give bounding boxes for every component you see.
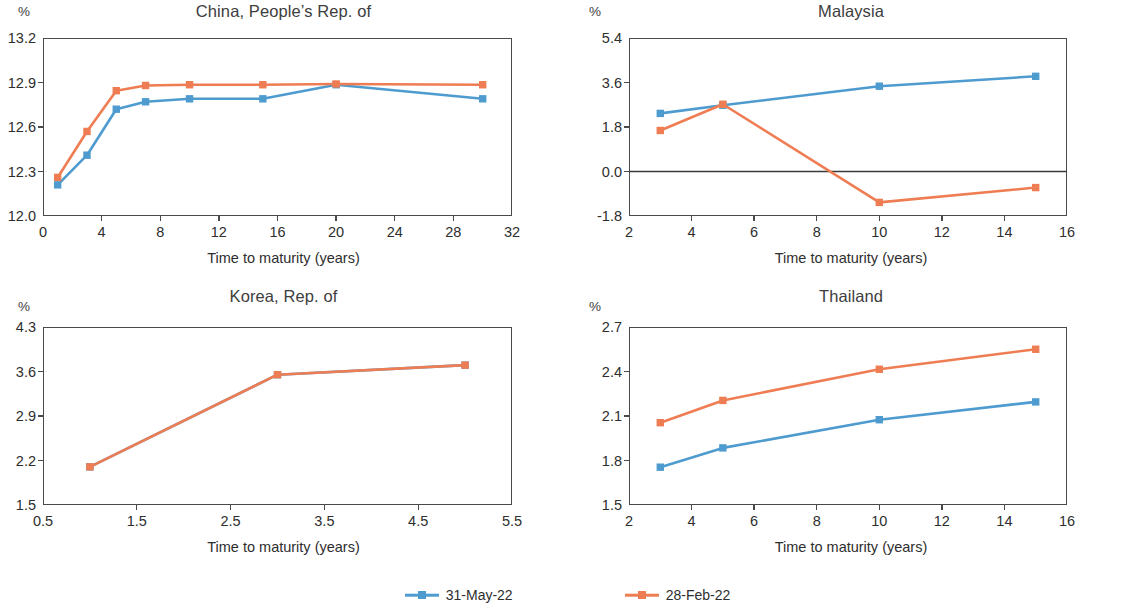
- x-tick-label-thailand: 12: [934, 513, 950, 529]
- y-unit-thailand: %: [589, 299, 601, 314]
- chart-title-malaysia: Malaysia: [567, 2, 1135, 21]
- x-tick-label-china: 4: [98, 224, 106, 240]
- y-tick-mark: [624, 371, 629, 372]
- series-line-china-0: [58, 85, 483, 185]
- y-tick-mark: [624, 82, 629, 83]
- data-point-marker: [83, 151, 90, 158]
- data-point-marker: [1032, 73, 1039, 80]
- plot-area-thailand: 1.51.82.12.42.7246810121416: [629, 327, 1067, 505]
- y-tick-mark: [624, 415, 629, 416]
- y-tick-label-korea: 2.9: [16, 408, 36, 424]
- x-axis-label-korea: Time to maturity (years): [0, 539, 567, 555]
- y-tick-label-thailand: 2.7: [602, 319, 622, 335]
- y-tick-mark: [38, 371, 43, 372]
- series-line-korea-1: [90, 365, 465, 467]
- x-tick-label-malaysia: 6: [750, 224, 758, 240]
- data-point-marker: [274, 371, 281, 378]
- x-tick-label-malaysia: 2: [625, 224, 633, 240]
- data-point-marker: [657, 463, 664, 470]
- x-tick-mark: [418, 505, 419, 510]
- data-point-marker: [142, 98, 149, 105]
- x-tick-label-thailand: 14: [996, 513, 1012, 529]
- y-tick-label-china: 12.9: [8, 75, 36, 91]
- y-tick-label-thailand: 2.4: [602, 364, 622, 380]
- panel-china: China, People’s Rep. of % 12.012.312.612…: [0, 0, 567, 285]
- y-tick-label-china: 12.0: [8, 208, 36, 224]
- legend-item-0: 31-May-22: [405, 587, 513, 603]
- data-point-marker: [86, 463, 93, 470]
- data-point-marker: [186, 95, 193, 102]
- plot-area-china: 12.012.312.612.913.2048121620242832: [43, 38, 512, 216]
- data-point-marker: [461, 361, 468, 368]
- x-tick-mark: [335, 216, 336, 221]
- y-tick-label-malaysia: 1.8: [602, 119, 622, 135]
- x-tick-label-malaysia: 8: [813, 224, 821, 240]
- y-tick-label-korea: 2.2: [16, 453, 36, 469]
- y-tick-mark: [624, 460, 629, 461]
- y-tick-label-thailand: 1.8: [602, 453, 622, 469]
- x-tick-mark: [879, 505, 880, 510]
- data-point-marker: [657, 110, 664, 117]
- y-unit-korea: %: [18, 299, 30, 314]
- x-tick-mark: [1004, 505, 1005, 510]
- data-point-marker: [113, 106, 120, 113]
- plot-svg-thailand: [629, 327, 1067, 505]
- x-tick-label-china: 0: [39, 224, 47, 240]
- y-tick-mark: [38, 171, 43, 172]
- x-tick-label-china: 8: [156, 224, 164, 240]
- y-tick-label-malaysia: 5.4: [602, 30, 622, 46]
- x-tick-mark: [879, 216, 880, 221]
- x-tick-label-thailand: 2: [625, 513, 633, 529]
- y-tick-mark: [38, 126, 43, 127]
- data-point-marker: [259, 81, 266, 88]
- y-unit-china: %: [18, 4, 30, 19]
- x-tick-label-thailand: 6: [750, 513, 758, 529]
- x-tick-mark: [230, 505, 231, 510]
- plot-svg-malaysia: [629, 38, 1067, 216]
- y-tick-label-china: 13.2: [8, 30, 36, 46]
- panel-thailand: Thailand % 1.51.82.12.42.7246810121416 T…: [567, 285, 1135, 570]
- x-tick-label-malaysia: 16: [1059, 224, 1075, 240]
- y-tick-label-malaysia: 0.0: [602, 164, 622, 180]
- x-tick-label-china: 12: [211, 224, 227, 240]
- data-point-marker: [657, 127, 664, 134]
- x-axis-label-china: Time to maturity (years): [0, 250, 567, 266]
- x-tick-label-thailand: 10: [871, 513, 887, 529]
- x-tick-mark: [691, 505, 692, 510]
- x-axis-label-thailand: Time to maturity (years): [567, 539, 1135, 555]
- x-tick-mark: [816, 505, 817, 510]
- data-point-marker: [1032, 398, 1039, 405]
- data-point-marker: [1032, 184, 1039, 191]
- series-line-malaysia-1: [660, 104, 1035, 202]
- y-tick-mark: [38, 415, 43, 416]
- x-tick-mark: [753, 505, 754, 510]
- x-tick-mark: [691, 216, 692, 221]
- plot-area-korea: 1.52.22.93.64.30.51.52.53.54.55.5: [43, 327, 512, 505]
- y-tick-label-korea: 4.3: [16, 319, 36, 335]
- x-tick-mark: [941, 216, 942, 221]
- y-tick-mark: [624, 171, 629, 172]
- figure-legend: 31-May-22 28-Feb-22: [0, 587, 1135, 603]
- y-tick-label-thailand: 2.1: [602, 408, 622, 424]
- legend-item-1: 28-Feb-22: [625, 587, 731, 603]
- data-point-marker: [719, 101, 726, 108]
- x-tick-label-korea: 0.5: [33, 513, 53, 529]
- x-tick-label-korea: 1.5: [127, 513, 147, 529]
- data-point-marker: [259, 95, 266, 102]
- x-tick-label-malaysia: 14: [996, 224, 1012, 240]
- data-point-marker: [54, 181, 61, 188]
- panel-korea: Korea, Rep. of % 1.52.22.93.64.30.51.52.…: [0, 285, 567, 570]
- x-tick-label-china: 16: [269, 224, 285, 240]
- x-tick-label-malaysia: 4: [688, 224, 696, 240]
- legend-marker-icon-1: [625, 589, 659, 601]
- panel-malaysia: Malaysia % -1.80.01.83.65.4246810121416 …: [567, 0, 1135, 285]
- x-tick-label-malaysia: 12: [934, 224, 950, 240]
- x-tick-mark: [136, 505, 137, 510]
- y-tick-label-korea: 1.5: [16, 497, 36, 513]
- x-tick-mark: [324, 505, 325, 510]
- series-line-thailand-0: [660, 402, 1035, 467]
- x-tick-mark: [394, 216, 395, 221]
- data-point-marker: [479, 81, 486, 88]
- data-point-marker: [113, 87, 120, 94]
- x-tick-label-korea: 5.5: [502, 513, 522, 529]
